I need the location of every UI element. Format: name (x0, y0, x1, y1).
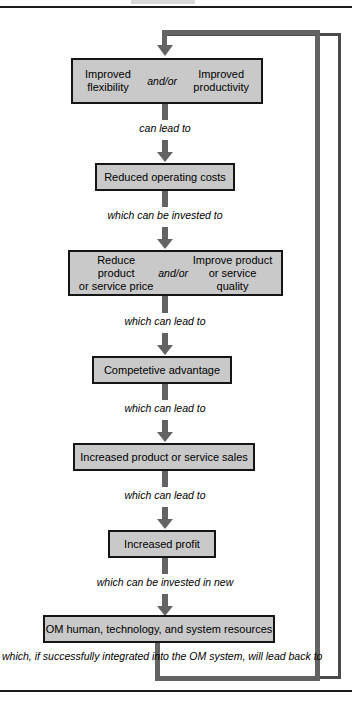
connector-stem-1 (162, 104, 168, 120)
page-top-rule (0, 6, 352, 8)
edge-label-2: which can be invested to (82, 209, 248, 221)
node-text: Reduced operating costs (104, 171, 226, 184)
arrowhead-icon-3 (157, 345, 173, 355)
connector-stem-6 (162, 558, 168, 574)
edge-label-5: which can lead to (90, 489, 240, 501)
edge-label-3: which can lead to (90, 315, 240, 327)
node-text-left: Improved flexibility (85, 68, 131, 94)
node-competitive-advantage[interactable]: Competetive advantage (92, 356, 232, 384)
node-text-right: Improved productivity (193, 68, 249, 94)
arrowhead-icon-2 (157, 239, 173, 249)
feedback-line-bottom (155, 676, 320, 681)
frame-mask-top-left (70, 30, 165, 39)
node-price-quality[interactable]: Reduce product or service price and/or I… (68, 250, 283, 296)
feedback-label: which, if successfully integrated into t… (2, 650, 322, 662)
edge-label-6: which can be invested in new (74, 576, 256, 588)
node-text: Increased product or service sales (80, 451, 248, 464)
node-text: Competetive advantage (104, 364, 220, 377)
edge-label-4: which can lead to (90, 402, 240, 414)
node-text-connector: and/or (143, 75, 181, 88)
node-text: Increased profit (124, 538, 200, 551)
arrowhead-icon-1 (157, 152, 173, 162)
connector-stem-5 (162, 471, 168, 487)
node-text-connector: and/or (154, 267, 192, 280)
node-text: OM human, technology, and system resourc… (46, 623, 273, 636)
feedback-line-top (162, 30, 320, 35)
node-om-resources[interactable]: OM human, technology, and system resourc… (43, 615, 275, 643)
arrowhead-icon-5 (157, 519, 173, 529)
node-reduced-operating-costs[interactable]: Reduced operating costs (95, 163, 235, 191)
arrowhead-icon-4 (157, 432, 173, 442)
node-text-right: Improve product or service quality (192, 254, 273, 293)
node-text-left: Reduce product or service price (78, 254, 154, 293)
page-top-smudge (131, 0, 195, 4)
frame-mask-bottom-left (70, 671, 155, 681)
node-increased-profit[interactable]: Increased profit (108, 530, 216, 558)
connector-stem-2 (162, 191, 168, 207)
page-bottom-rule (0, 690, 352, 692)
feedback-arrowhead-icon (157, 45, 173, 56)
flowchart-page: Improved flexibility and/or Improved pro… (0, 0, 352, 715)
connector-stem-3 (162, 296, 168, 313)
edge-label-1: can lead to (95, 122, 235, 134)
node-improved-flexibility-productivity[interactable]: Improved flexibility and/or Improved pro… (71, 58, 263, 104)
node-increased-sales[interactable]: Increased product or service sales (73, 443, 255, 471)
connector-stem-4 (162, 384, 168, 400)
feedback-line-right (315, 30, 320, 681)
